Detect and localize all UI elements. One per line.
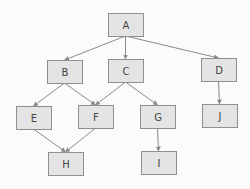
node-label: A [123,20,130,31]
node-c[interactable]: C [109,60,144,83]
node-a[interactable]: A [109,14,144,37]
node-label: H [62,159,70,170]
diagram-canvas: ABCDEFGJHI [0,0,250,189]
edge-c-f [96,82,126,105]
node-h[interactable]: H [49,153,84,176]
edge-f-h [66,128,96,152]
node-d[interactable]: D [202,59,237,82]
edge-e-h [34,129,66,152]
node-label: G [154,112,162,123]
node-label: F [93,112,99,123]
edge-a-b [65,36,126,60]
node-e[interactable]: E [17,107,52,130]
edge-a-d [126,36,219,58]
node-label: B [62,67,69,78]
edge-g-i [158,128,159,151]
node-g[interactable]: G [141,106,176,129]
node-j[interactable]: J [203,105,238,128]
node-label: J [218,111,222,122]
edge-c-g [126,82,158,105]
edge-b-e [34,83,65,106]
node-label: I [158,158,161,169]
node-label: C [123,66,130,77]
node-label: E [31,113,37,124]
edge-d-j [219,81,220,104]
edges-layer [34,36,220,152]
node-i[interactable]: I [142,152,177,175]
node-b[interactable]: B [48,61,83,84]
node-f[interactable]: F [79,106,114,129]
graph-svg: ABCDEFGJHI [0,0,250,189]
node-label: D [215,65,223,76]
edge-b-f [65,83,96,105]
